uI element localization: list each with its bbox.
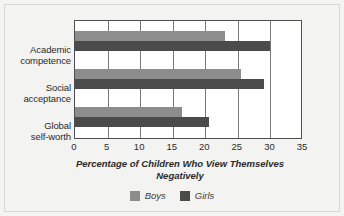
- x-tick-label-15: 15: [166, 141, 177, 152]
- x-tick-label-25: 25: [232, 141, 243, 152]
- bar-girls-2: [75, 117, 209, 127]
- gridline-30: [270, 21, 271, 138]
- legend-swatch-icon: [180, 191, 190, 201]
- x-tick-label-35: 35: [297, 141, 308, 152]
- chart-figure: Academic competence Social acceptance Gl…: [0, 0, 344, 216]
- y-axis-label-academic-competence: Academic competence: [1, 44, 71, 66]
- legend-item-boys: Boys: [130, 190, 166, 201]
- x-tick-label-10: 10: [134, 141, 145, 152]
- x-tick-label-5: 5: [104, 141, 109, 152]
- bar-girls-0: [75, 41, 270, 51]
- y-axis-label-line: Social: [1, 82, 71, 93]
- x-axis-title-line2: Negatively: [40, 170, 320, 182]
- y-axis-label-social-acceptance: Social acceptance: [1, 82, 71, 104]
- y-axis-label-line: self-worth: [1, 131, 71, 142]
- y-axis-label-line: competence: [1, 55, 71, 66]
- bar-boys-2: [75, 107, 182, 117]
- bar-boys-0: [75, 31, 225, 41]
- chart-legend: BoysGirls: [0, 190, 344, 201]
- legend-item-girls: Girls: [180, 190, 215, 201]
- x-axis-ticks: 05101520253035: [74, 141, 302, 155]
- y-axis-label-global-self-worth: Global self-worth: [1, 120, 71, 142]
- x-axis-title: Percentage of Children Who View Themselv…: [40, 158, 320, 182]
- x-axis-title-line1: Percentage of Children Who View Themselv…: [40, 158, 320, 170]
- bar-girls-1: [75, 79, 264, 89]
- y-axis-label-line: Global: [1, 120, 71, 131]
- x-tick-label-0: 0: [71, 141, 76, 152]
- legend-label: Girls: [195, 190, 215, 201]
- legend-label: Boys: [145, 190, 166, 201]
- bar-boys-1: [75, 69, 241, 79]
- y-axis-labels: Academic competence Social acceptance Gl…: [0, 20, 71, 139]
- legend-swatch-icon: [130, 191, 140, 201]
- plot-area: [74, 20, 302, 139]
- y-axis-label-line: Academic: [1, 44, 71, 55]
- y-axis-label-line: acceptance: [1, 93, 71, 104]
- x-tick-label-30: 30: [264, 141, 275, 152]
- x-tick-label-20: 20: [199, 141, 210, 152]
